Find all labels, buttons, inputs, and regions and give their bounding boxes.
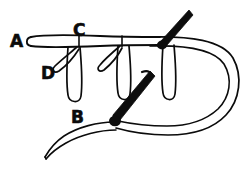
- label-d: D: [41, 63, 55, 83]
- needle-lower-middle-eye: [109, 116, 121, 126]
- label-c: C: [73, 20, 85, 40]
- diagram-background: [0, 0, 245, 193]
- needle-upper-right-eye: [157, 41, 167, 50]
- label-a: A: [10, 31, 24, 51]
- stitch-diagram: A C D B: [0, 0, 245, 193]
- bottom-thread-tail-tip: [45, 157, 46, 159]
- label-b: B: [71, 107, 84, 127]
- stitch-illustration: A C D B: [0, 0, 245, 193]
